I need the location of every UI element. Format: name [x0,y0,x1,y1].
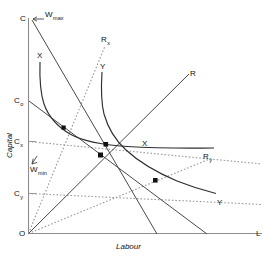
figure-canvas: C Wmax X Rx R Co Y Capital Cx X Ry [0,0,269,260]
isoquant-y-right-label: Y [217,198,223,207]
isocost-wmax-line [32,20,157,234]
isoquant-y-curve [101,72,216,194]
x-axis-title: Labour [116,242,141,251]
tangency-markers-group [62,126,158,183]
ray-r-label: R [190,69,196,78]
wmin-arrow-group [32,156,37,164]
wmax-label: Wmax [45,10,64,21]
y-axis-top-label: C [20,14,26,23]
isoquant-curves-group [40,62,216,194]
isocost-lines-group [29,20,208,234]
origin-label: O [19,229,25,238]
x-axis-end-label: L [256,229,261,238]
c-y-label: Cy [14,189,23,200]
tangency-marker-1 [62,126,66,130]
isoquant-diagram-svg: C Wmax X Rx R Co Y Capital Cx X Ry [0,0,269,260]
isoquant-y-top-label: Y [100,62,106,71]
tangency-marker-3 [98,153,103,158]
ray-rx-label: Rx [101,35,110,46]
wmax-arrow-group [33,17,44,21]
isoquant-x-right-label: X [142,139,148,148]
isoquant-x-top-label: X [37,51,43,60]
tangency-marker-4 [153,178,158,183]
wmin-label: Wmin [30,165,47,176]
c-zero-label: Co [14,96,23,107]
tangency-marker-2 [104,142,109,147]
y-axis-title: Capital [5,133,14,158]
ray-r-line [29,74,190,234]
c-x-label: Cx [14,137,23,148]
text-labels-group: C Wmax X Rx R Co Y Capital Cx X Ry [5,10,261,251]
